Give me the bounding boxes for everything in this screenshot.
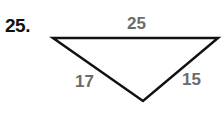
side-label-top: 25 (127, 14, 146, 34)
side-label-left: 17 (75, 72, 94, 92)
side-label-right: 15 (182, 70, 201, 90)
triangle-figure (0, 0, 222, 137)
